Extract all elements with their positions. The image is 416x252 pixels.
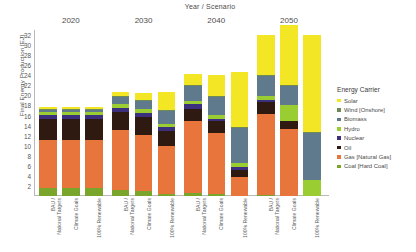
x-axis-tick: 100% Renewable xyxy=(242,198,248,252)
x-axis-tick: Climate Goals xyxy=(146,198,152,252)
bar-segment xyxy=(158,146,176,193)
chart-title: Year / Scenario xyxy=(150,3,270,10)
bar-segment xyxy=(231,177,249,196)
legend-swatch-icon xyxy=(337,165,341,169)
bar-segment xyxy=(85,188,103,196)
legend-item[interactable]: Coal [Hard Coal] xyxy=(336,162,416,171)
bar-segment xyxy=(158,92,176,109)
y-axis-tick: 22 xyxy=(1,82,31,89)
x-axis-tick: 100% Renewable xyxy=(314,198,320,252)
bar-segment xyxy=(62,119,80,141)
x-axis-tick: Climate Goals xyxy=(218,198,224,252)
bar-stack[interactable] xyxy=(85,106,103,196)
bar-segment xyxy=(184,109,202,121)
legend-label: Hydro xyxy=(344,126,360,132)
y-axis-tick: 2 xyxy=(1,182,31,189)
legend-label: Solar xyxy=(344,98,358,104)
bar-segment xyxy=(280,105,298,121)
y-axis-tick: 10 xyxy=(1,142,31,149)
legend-label: Oil xyxy=(344,145,351,151)
bar-segment xyxy=(303,180,321,196)
y-axis-ticks: 2468101214161820222426283032 xyxy=(0,0,34,252)
y-axis-tick: 20 xyxy=(1,92,31,99)
legend-item[interactable]: Nuclear xyxy=(336,134,416,143)
x-axis-tick: BAU / National Targets xyxy=(268,198,280,252)
x-axis-tick: BAU / National Targets xyxy=(195,198,207,252)
bar-segment xyxy=(62,188,80,196)
y-axis-tick: 26 xyxy=(1,62,31,69)
y-axis-tick: 28 xyxy=(1,52,31,59)
y-axis-tick: 4 xyxy=(1,172,31,179)
bar-segment xyxy=(231,128,249,163)
bar-segment xyxy=(208,75,226,97)
bar-segment xyxy=(303,133,321,180)
bar-segment xyxy=(158,131,176,146)
y-axis-tick: 30 xyxy=(1,42,31,49)
bar-stack[interactable] xyxy=(280,24,298,196)
bar-segment xyxy=(280,86,298,105)
bar-stack[interactable] xyxy=(257,35,275,196)
legend-item[interactable]: Gas [Natural Gas] xyxy=(336,152,416,161)
bar-segment xyxy=(184,74,202,85)
legend-item[interactable]: Hydro xyxy=(336,124,416,133)
legend-swatch-icon xyxy=(337,127,341,131)
legend-label: Gas [Natural Gas] xyxy=(344,154,391,160)
bar-stack[interactable] xyxy=(62,106,80,196)
y-axis-tick: 8 xyxy=(1,152,31,159)
bar-segment xyxy=(208,121,226,133)
bar-segment xyxy=(231,72,249,126)
x-axis-tick: BAU / National Targets xyxy=(50,198,62,252)
legend-title: Energy Carrier xyxy=(336,86,416,93)
bar-stack[interactable] xyxy=(231,72,249,196)
bar-stack[interactable] xyxy=(112,92,130,196)
legend-items: SolarWind [Onshore]BiomassHydroNuclearOi… xyxy=(336,96,416,171)
legend-label: Wind [Onshore] xyxy=(344,107,385,113)
bar-stack[interactable] xyxy=(184,74,202,196)
legend-swatch-icon xyxy=(337,108,341,112)
legend-label: Nuclear xyxy=(344,135,364,141)
bar-stack[interactable] xyxy=(208,75,226,196)
group-label-2020: 2020 xyxy=(51,16,91,25)
group-label-2030: 2030 xyxy=(124,16,164,25)
chart-figure: Year / Scenario Final Energy Production … xyxy=(0,0,416,252)
bar-segment xyxy=(39,140,57,188)
bar-stack[interactable] xyxy=(135,93,153,196)
x-axis-tick: Climate Goals xyxy=(73,198,79,252)
bar-stack[interactable] xyxy=(158,92,176,196)
bar-segment xyxy=(135,101,153,109)
bar-segment xyxy=(158,111,176,124)
bar-segment xyxy=(208,133,226,194)
bar-segment xyxy=(257,76,275,96)
bar-segment xyxy=(112,97,130,104)
legend-item[interactable]: Oil xyxy=(336,143,416,152)
bar-stack[interactable] xyxy=(39,106,57,196)
bar-stack[interactable] xyxy=(303,35,321,196)
legend-swatch-icon xyxy=(337,99,341,103)
bar-segment xyxy=(62,140,80,188)
group-label-2040: 2040 xyxy=(196,16,236,25)
bar-segment xyxy=(39,119,57,141)
bar-segment xyxy=(112,112,130,130)
group-label-2050: 2050 xyxy=(269,16,309,25)
x-axis-tick: Climate Goals xyxy=(291,198,297,252)
bar-segment xyxy=(303,35,321,132)
legend-label: Coal [Hard Coal] xyxy=(344,163,388,169)
y-axis-tick: 32 xyxy=(1,32,31,39)
bar-segment xyxy=(231,170,249,177)
y-axis-tick: 14 xyxy=(1,122,31,129)
legend-item[interactable]: Solar xyxy=(336,96,416,105)
bar-segment xyxy=(85,119,103,141)
y-axis-tick: 16 xyxy=(1,112,31,119)
x-axis-tick: 100% Renewable xyxy=(169,198,175,252)
bar-segment xyxy=(184,86,202,101)
bar-segment xyxy=(112,130,130,190)
x-axis-tick: BAU / National Targets xyxy=(123,198,135,252)
bar-segment xyxy=(184,121,202,193)
y-axis-tick: 24 xyxy=(1,72,31,79)
bar-segment xyxy=(85,140,103,188)
legend-swatch-icon xyxy=(337,155,341,159)
legend-item[interactable]: Wind [Onshore] xyxy=(336,105,416,114)
bar-segment xyxy=(280,129,298,196)
bar-segment xyxy=(135,135,153,192)
legend-item[interactable]: Biomass xyxy=(336,115,416,124)
